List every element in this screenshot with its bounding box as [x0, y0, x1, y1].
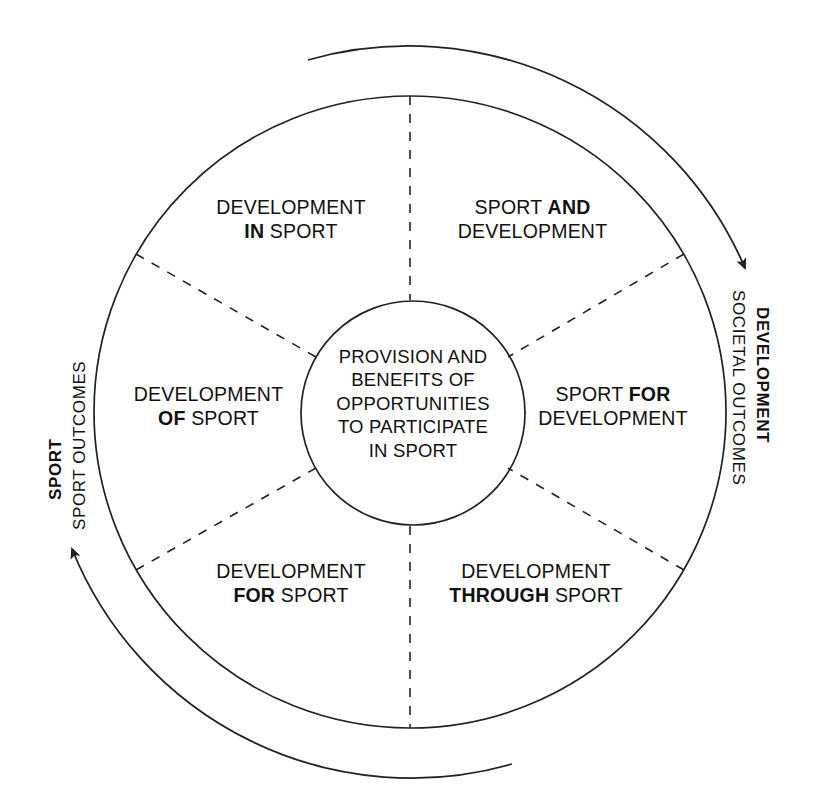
- segment-label-development-through-sport: DEVELOPMENT THROUGH SPORT: [424, 560, 648, 608]
- axis-label-development: DEVELOPMENT: [751, 307, 772, 443]
- axis-right-plain: SOCIETAL OUTCOMES: [729, 290, 748, 485]
- axis-left-bold: SPORT: [46, 438, 65, 500]
- segment-line-2: THROUGH SPORT: [424, 584, 648, 608]
- center-line-2: BENEFITS OF: [293, 368, 533, 391]
- segment-line-2: DEVELOPMENT: [513, 407, 713, 431]
- segment-label-sport-for-development: SPORT FOR DEVELOPMENT: [513, 383, 713, 431]
- segment-line-2: FOR SPORT: [186, 584, 396, 608]
- segment-label-development-in-sport: DEVELOPMENT IN SPORT: [186, 196, 396, 244]
- axis-label-sport-outcomes-sub: SPORT OUTCOMES: [70, 361, 91, 530]
- center-circle-label: PROVISION AND BENEFITS OF OPPORTUNITIES …: [293, 345, 533, 462]
- segment-label-sport-and-development: SPORT AND DEVELOPMENT: [425, 196, 640, 244]
- center-line-5: IN SPORT: [293, 439, 533, 462]
- axis-label-sport-outcomes: SPORT: [46, 438, 67, 500]
- axis-right-bold: DEVELOPMENT: [753, 307, 772, 443]
- segment-label-development-for-sport: DEVELOPMENT FOR SPORT: [186, 560, 396, 608]
- axis-label-societal-outcomes: SOCIETAL OUTCOMES: [727, 290, 748, 485]
- center-line-1: PROVISION AND: [293, 345, 533, 368]
- segment-line-1: SPORT FOR: [513, 383, 713, 407]
- segment-line-2: OF SPORT: [106, 407, 311, 431]
- spoke-upper-left: [136, 254, 316, 357]
- segment-line-1: DEVELOPMENT: [186, 196, 396, 220]
- center-line-3: OPPORTUNITIES: [293, 392, 533, 415]
- segment-label-development-of-sport: DEVELOPMENT OF SPORT: [106, 383, 311, 431]
- segment-line-2: DEVELOPMENT: [425, 220, 640, 244]
- center-line-4: TO PARTICIPATE: [293, 415, 533, 438]
- axis-left-plain: SPORT OUTCOMES: [70, 361, 89, 530]
- segment-line-1: DEVELOPMENT: [106, 383, 311, 407]
- spoke-lower-left: [136, 468, 316, 570]
- spoke-upper-right: [508, 254, 684, 357]
- segment-line-1: DEVELOPMENT: [186, 560, 396, 584]
- segment-line-2: IN SPORT: [186, 220, 396, 244]
- spoke-lower-right: [508, 468, 684, 570]
- sport-development-diagram: DEVELOPMENT IN SPORT SPORT AND DEVELOPME…: [0, 0, 816, 811]
- segment-line-1: SPORT AND: [425, 196, 640, 220]
- segment-line-1: DEVELOPMENT: [424, 560, 648, 584]
